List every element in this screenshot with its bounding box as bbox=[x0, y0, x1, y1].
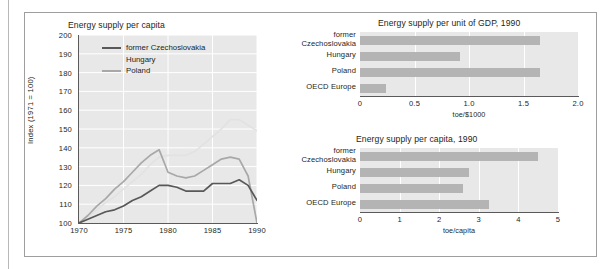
capita-chart-plot-area bbox=[360, 148, 558, 212]
gdp-bar-chart-panel: Energy supply per unit of GDP, 1990 form… bbox=[284, 16, 594, 128]
gdp-chart-x-axis-label: toe/$1000 bbox=[409, 110, 529, 119]
bar-chart-x-tick: 2.0 bbox=[561, 99, 595, 108]
line-chart-legend: former CzechoslovakiaHungaryPoland bbox=[102, 42, 205, 77]
bar-chart-x-tick: 1 bbox=[383, 215, 417, 224]
line-chart-y-axis bbox=[78, 35, 79, 224]
line-chart-panel: Energy supply per capita Index (1971 = 1… bbox=[30, 16, 270, 244]
line-chart-y-tick: 160 bbox=[32, 106, 72, 115]
bar-chart-gridline bbox=[578, 32, 579, 96]
line-chart-y-tick: 140 bbox=[32, 143, 72, 152]
bar bbox=[360, 184, 463, 193]
bar-category-label: Hungary bbox=[236, 167, 356, 176]
line-chart-y-tick: 170 bbox=[32, 87, 72, 96]
bar bbox=[360, 152, 538, 161]
legend-swatch bbox=[102, 70, 121, 72]
legend-item: Hungary bbox=[102, 54, 205, 66]
gdp-chart-title: Energy supply per unit of GDP, 1990 bbox=[378, 18, 520, 28]
figure-root: Energy supply per capita Index (1971 = 1… bbox=[0, 0, 615, 269]
bar-category-label: Hungary bbox=[236, 51, 356, 60]
line-chart-y-tick: 200 bbox=[32, 31, 72, 40]
line-chart-x-tick: 1985 bbox=[193, 226, 233, 235]
line-chart-x-axis bbox=[78, 223, 258, 224]
bar-chart-x-tick: 0 bbox=[343, 99, 377, 108]
bar-chart-x-tick: 2 bbox=[422, 215, 456, 224]
line-chart-x-tick: 1970 bbox=[59, 226, 99, 235]
legend-swatch bbox=[102, 47, 121, 49]
legend-label: Hungary bbox=[126, 54, 155, 66]
legend-item: Poland bbox=[102, 65, 205, 77]
bar-chart-x-tick: 3 bbox=[462, 215, 496, 224]
line-chart-y-tick: 180 bbox=[32, 68, 72, 77]
bar-chart-x-tick: 0.5 bbox=[398, 99, 432, 108]
bar bbox=[360, 84, 386, 93]
line-chart-title: Energy supply per capita bbox=[68, 20, 165, 30]
line-chart-y-tick: 120 bbox=[32, 181, 72, 190]
bar-category-label: OECD Europe bbox=[236, 199, 356, 208]
bar bbox=[360, 52, 460, 61]
bar bbox=[360, 36, 540, 45]
bar-chart-x-axis bbox=[360, 212, 559, 213]
line-chart-y-tick: 110 bbox=[32, 200, 72, 209]
bar-category-label: Poland bbox=[236, 183, 356, 192]
bar-category-label: Poland bbox=[236, 67, 356, 76]
bar-category-label: formerCzechoslovakia bbox=[236, 31, 356, 48]
bar-chart-x-tick: 5 bbox=[541, 215, 575, 224]
bar bbox=[360, 68, 540, 77]
bar-chart-gridline bbox=[558, 148, 559, 212]
line-chart-y-tick: 150 bbox=[32, 125, 72, 134]
legend-label: Poland bbox=[126, 65, 150, 77]
capita-chart-x-axis-label: toe/capita bbox=[399, 226, 519, 235]
gdp-chart-plot-area bbox=[360, 32, 578, 96]
line-chart-x-tick: 1980 bbox=[148, 226, 188, 235]
line-chart-x-tick: 1975 bbox=[104, 226, 144, 235]
bar-chart-x-tick: 0 bbox=[343, 215, 377, 224]
bar-chart-x-tick: 1.0 bbox=[452, 99, 486, 108]
line-chart-y-tick: 190 bbox=[32, 49, 72, 58]
bar-chart-x-tick: 4 bbox=[501, 215, 535, 224]
capita-bar-chart-panel: Energy supply per capita, 1990 formerCze… bbox=[264, 132, 594, 244]
bar-chart-x-axis bbox=[360, 96, 579, 97]
legend-label: former Czechoslovakia bbox=[126, 42, 205, 54]
bar bbox=[360, 168, 469, 177]
page-margin-rule bbox=[8, 0, 9, 269]
line-chart-y-tick: 130 bbox=[32, 162, 72, 171]
bar-category-label: OECD Europe bbox=[236, 83, 356, 92]
legend-item: former Czechoslovakia bbox=[102, 42, 205, 54]
capita-chart-title: Energy supply per capita, 1990 bbox=[356, 134, 477, 144]
bar-chart-x-tick: 1.5 bbox=[507, 99, 541, 108]
bar-category-label: formerCzechoslovakia bbox=[236, 147, 356, 164]
bar bbox=[360, 200, 489, 209]
